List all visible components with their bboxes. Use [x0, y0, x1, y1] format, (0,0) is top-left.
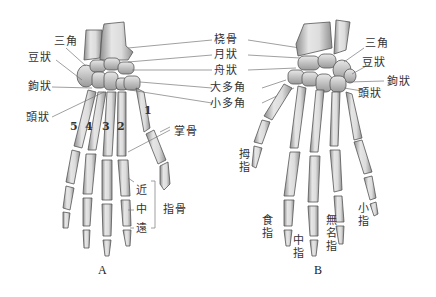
- caption-panel-b: B: [314, 263, 322, 278]
- digit-number-4: 4: [85, 120, 93, 133]
- label-index-finger: 食指: [261, 214, 273, 240]
- panel-a-skeleton: [63, 22, 170, 256]
- label-middle-phalanx: 中: [136, 204, 148, 215]
- label-proximal-phalanx: 近: [136, 185, 148, 196]
- digit-number-5: 5: [70, 120, 78, 133]
- label-little-finger: 小指: [357, 202, 369, 228]
- label-hamate-a: 鉤狀: [28, 81, 52, 92]
- label-capitate-a: 頭狀: [26, 112, 50, 123]
- label-triquetral-b: 三角: [365, 38, 389, 49]
- label-hamate-b: 鉤狀: [387, 76, 411, 87]
- caption-panel-a: A: [98, 263, 107, 278]
- digit-number-2: 2: [117, 120, 125, 133]
- digit-number-3: 3: [102, 120, 110, 133]
- label-pisiform-a: 豆狀: [28, 52, 52, 63]
- label-pisiform-b: 豆狀: [362, 57, 386, 68]
- label-triquetral-a: 三角: [54, 36, 78, 47]
- label-capitate-b: 頭狀: [358, 88, 382, 99]
- label-trapezoid: 小多角: [210, 98, 246, 109]
- label-ring-finger: 無名指: [325, 214, 337, 253]
- label-lunate: 月狀: [214, 49, 238, 60]
- label-radius: 桡骨: [214, 34, 238, 45]
- label-thumb: 拇指: [238, 148, 250, 174]
- label-phalanges: 指骨: [163, 204, 187, 215]
- label-trapezium: 大多角: [210, 82, 246, 93]
- label-metacarpal: 掌骨: [174, 126, 198, 137]
- label-distal-phalanx: 遠: [136, 223, 148, 234]
- digit-number-1: 1: [144, 104, 152, 117]
- label-scaphoid: 舟狀: [214, 65, 238, 76]
- label-middle-finger: 中指: [292, 234, 304, 260]
